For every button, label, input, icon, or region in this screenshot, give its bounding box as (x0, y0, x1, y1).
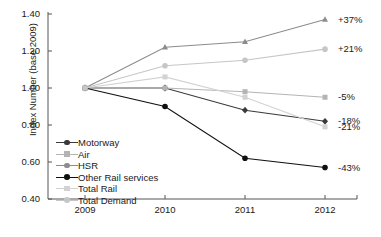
end-label-total-rail: -21% (338, 121, 360, 132)
y-tick-label: 1.40 (6, 8, 40, 19)
legend-item-other-rail-services[interactable]: Other Rail services (56, 172, 158, 184)
y-tick-label: 0.80 (6, 119, 40, 130)
legend-marker-icon (56, 149, 78, 160)
x-tick-label: 2011 (217, 204, 273, 215)
y-tick-label: 1.00 (6, 82, 40, 93)
chart-figure: Index Number (base 2009) 0.400.600.801.0… (0, 0, 381, 237)
series-total-rail (83, 74, 328, 129)
chart-legend: MotorwayAirHSROther Rail servicesTotal R… (56, 137, 158, 206)
legend-item-label: Air (78, 149, 90, 161)
legend-item-hsr[interactable]: HSR (56, 160, 158, 172)
y-tick-label: 0.40 (6, 193, 40, 204)
legend-item-air[interactable]: Air (56, 149, 158, 161)
legend-marker-icon (56, 195, 78, 206)
legend-marker-icon (56, 172, 78, 183)
end-label-air: -5% (338, 91, 355, 102)
end-label-total-demand: +21% (338, 43, 363, 54)
x-tick-label: 2012 (297, 204, 353, 215)
y-tick-label: 1.20 (6, 45, 40, 56)
legend-marker-icon (56, 137, 78, 148)
end-label-hsr: +37% (338, 14, 363, 25)
legend-item-label: Other Rail services (78, 172, 158, 184)
series-motorway (82, 85, 328, 125)
legend-marker-icon (56, 160, 78, 171)
legend-item-label: HSR (78, 160, 98, 172)
end-label-other-rail-services: -43% (338, 162, 360, 173)
series-total-demand (82, 46, 328, 90)
legend-item-total-demand[interactable]: Total Demand (56, 195, 158, 207)
legend-marker-icon (56, 183, 78, 194)
y-tick-label: 0.60 (6, 156, 40, 167)
legend-item-label: Motorway (78, 137, 119, 149)
legend-item-motorway[interactable]: Motorway (56, 137, 158, 149)
legend-item-label: Total Rail (78, 183, 117, 195)
legend-item-label: Total Demand (78, 195, 137, 207)
legend-item-total-rail[interactable]: Total Rail (56, 183, 158, 195)
